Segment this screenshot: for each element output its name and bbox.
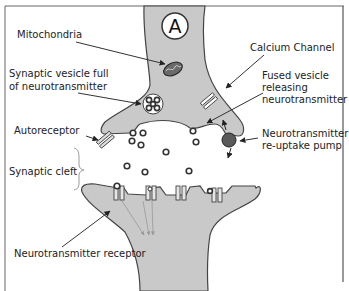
label-fused-vesicle-1: Fused vesicle <box>262 70 329 81</box>
svg-text:A: A <box>169 15 182 37</box>
label-synaptic-cleft: Synaptic cleft <box>9 166 77 177</box>
label-mitochondria: Mitochondria <box>17 29 82 40</box>
label-fused-vesicle-3: neurotransmitter <box>262 94 348 105</box>
synaptic-vesicle-icon <box>143 94 163 114</box>
label-neurotransmitter-receptor: Neurotransmitter receptor <box>14 248 147 259</box>
postsynaptic-neuron <box>82 184 261 291</box>
label-synaptic-vesicle-1: Synaptic vesicle full <box>9 68 109 79</box>
neuron-a-marker: A <box>162 13 188 39</box>
label-autoreceptor: Autoreceptor <box>14 125 80 136</box>
label-calcium-channel: Calcium Channel <box>250 42 334 53</box>
label-reuptake-1: Neurotransmitter <box>262 128 349 139</box>
label-synaptic-vesicle-2: of neurotransmitter <box>9 81 108 92</box>
neurotransmitter-molecules <box>124 128 199 175</box>
label-fused-vesicle-2: releasing <box>262 82 308 93</box>
label-reuptake-2: re-uptake pump <box>262 140 342 151</box>
synapse-diagram: A <box>0 0 349 291</box>
